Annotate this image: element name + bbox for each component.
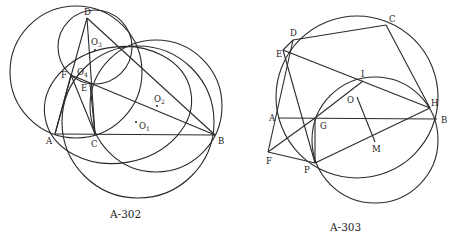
segment-fg: [268, 118, 315, 152]
label-g: G: [320, 121, 327, 131]
circle-o3: [58, 10, 132, 84]
segment-om: [357, 97, 375, 142]
segment-ch: [386, 25, 430, 108]
label-h: H: [431, 98, 438, 108]
segment-dc: [293, 25, 386, 40]
label-o3: O3: [91, 37, 102, 48]
segment-db: [87, 18, 215, 135]
center-o2: [156, 105, 158, 107]
segment-eh: [283, 50, 430, 108]
label-d: D: [290, 28, 297, 38]
label-f: F: [61, 70, 67, 80]
label-c: C: [91, 139, 98, 149]
geometry-figures: D O3 F O4 E O2 O1 A C B A-302 D C E I: [0, 0, 455, 234]
segment-af: [55, 75, 71, 134]
label-e: E: [276, 49, 282, 59]
label-f: F: [266, 156, 272, 166]
label-p: P: [304, 165, 310, 175]
figure-a303: D C E I O H A G B M F P A-303: [266, 14, 447, 233]
figure-a302: D O3 F O4 E O2 O1 A C B A-302: [10, 6, 224, 220]
label-b: B: [441, 115, 447, 125]
segment-gi: [315, 81, 363, 118]
circle-o1-lower: [62, 46, 214, 198]
label-o2: O2: [154, 94, 165, 105]
segment-ab: [55, 134, 215, 135]
label-m: M: [372, 144, 381, 154]
segment-ep: [283, 50, 315, 163]
label-d: D: [84, 7, 91, 17]
label-o4: O4: [77, 67, 88, 78]
label-o: O: [347, 95, 354, 105]
label-i: I: [361, 69, 364, 79]
label-b: B: [218, 136, 224, 146]
label-a: A: [45, 136, 53, 146]
circle-m: [312, 77, 438, 203]
label-a: A: [268, 113, 276, 123]
label-c: C: [389, 14, 396, 24]
center-o3: [94, 49, 96, 51]
segment-fp: [268, 152, 315, 163]
center-o1: [135, 121, 137, 123]
label-o1: O1: [139, 121, 150, 132]
caption-a303: A-303: [329, 221, 361, 233]
label-e: E: [81, 83, 87, 93]
caption-a302: A-302: [109, 208, 141, 220]
